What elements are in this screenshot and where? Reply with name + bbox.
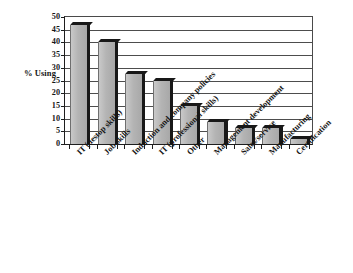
- x-axis-tick-mark: [97, 144, 98, 149]
- x-axis-tick-mark: [152, 144, 153, 149]
- y-axis-tick-label: 50: [52, 13, 60, 21]
- y-axis-tick-mark: [61, 106, 65, 107]
- y-axis-tick-label: 5: [56, 127, 60, 135]
- y-axis-tick-mark: [61, 93, 65, 94]
- y-axis-tick-mark: [61, 81, 65, 82]
- x-axis-tick-mark: [69, 144, 70, 149]
- y-axis-tick-label: 20: [52, 89, 60, 97]
- y-axis-tick-mark: [61, 30, 65, 31]
- x-axis-tick-mark: [179, 144, 180, 149]
- bar-chart-figure: % Using 05101520253035404550 IT (destop …: [0, 0, 353, 273]
- bar-side-shadow: [115, 39, 118, 144]
- y-axis-tick-mark: [61, 55, 65, 56]
- x-axis-tick-mark: [289, 144, 290, 149]
- y-axis-tick-mark: [61, 144, 65, 145]
- bar-side-shadow: [87, 22, 90, 144]
- bar: [70, 25, 87, 144]
- x-axis-tick-mark: [124, 144, 125, 149]
- y-axis-tick-mark: [61, 17, 65, 18]
- bar-side-shadow: [142, 71, 145, 144]
- y-axis-tick-mark: [61, 131, 65, 132]
- x-axis-tick-mark: [206, 144, 207, 149]
- y-axis-tick-label: 40: [52, 38, 60, 46]
- x-axis-tick-mark: [234, 144, 235, 149]
- y-axis-tick-label: 25: [52, 76, 60, 84]
- y-axis-label: % Using: [8, 68, 56, 78]
- y-axis-tick-mark: [61, 119, 65, 120]
- gridline: [65, 30, 312, 31]
- y-axis-tick-label: 10: [52, 114, 60, 122]
- y-axis-tick-label: 45: [52, 26, 60, 34]
- y-axis-tick-label: 30: [52, 64, 60, 72]
- y-axis-tick-mark: [61, 68, 65, 69]
- y-axis-tick-label: 0: [56, 140, 60, 148]
- y-axis-tick-mark: [61, 42, 65, 43]
- y-axis-tick-label: 15: [52, 102, 60, 110]
- x-axis-tick-mark: [261, 144, 262, 149]
- y-axis-tick-label: 35: [52, 51, 60, 59]
